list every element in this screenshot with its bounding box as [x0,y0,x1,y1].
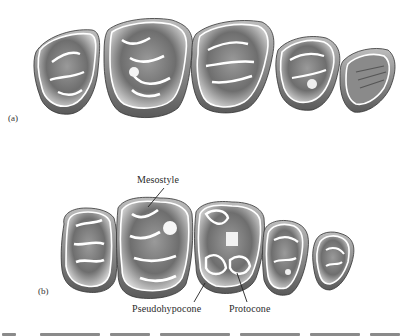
pseudohypocone-leader-line [194,283,205,302]
tooth-b3 [195,201,265,293]
tooth-b4 [263,220,309,295]
tooth-illustrations [0,0,404,336]
tooth-a1 [34,30,100,114]
caption-cutoff [0,330,404,336]
tooth-b1 [61,208,117,292]
panel-label-a: (a) [8,113,18,123]
tooth-a3 [191,21,274,113]
tooth-a2 [104,18,192,117]
label-protocone: Protocone [229,303,270,314]
panel-b-teeth [61,197,354,298]
tooth-a5 [340,48,395,112]
tooth-b5 [313,232,354,290]
label-pseudohypocone: Pseudohypocone [132,303,201,314]
panel-a-teeth [34,18,395,117]
tooth-b2 [117,197,193,298]
figure: (a) (b) Mesostyle Pseudohypocone Protoco… [0,0,404,336]
panel-label-b: (b) [38,286,49,296]
tooth-a4 [276,37,340,111]
label-mesostyle: Mesostyle [137,174,179,185]
